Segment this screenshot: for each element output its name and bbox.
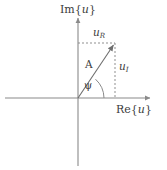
imaginary-axis-label: Im{u} [60, 4, 96, 15]
phase-angle-label: ψ [84, 80, 92, 91]
imaginary-axis-variable: u [82, 3, 89, 16]
imaginary-component-subscript: I [126, 65, 129, 74]
real-component-label: uR [93, 27, 105, 39]
real-component-base: u [93, 26, 100, 38]
imaginary-component-base: u [119, 60, 126, 72]
real-axis-variable: u [138, 103, 145, 116]
amplitude-label: A [85, 59, 93, 70]
real-component-subscript: R [100, 31, 105, 40]
imaginary-component-label: uI [119, 61, 129, 73]
real-axis-label: Re{u} [116, 104, 152, 115]
phasor-diagram-figure: Im{u} Re{u} uR uI A ψ [0, 0, 167, 170]
